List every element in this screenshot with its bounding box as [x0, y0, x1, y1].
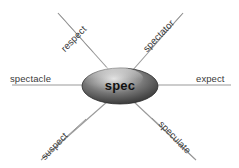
word-web-diagram: spec spectacle expect respect spectator …	[0, 0, 239, 168]
center-node-label: spec	[82, 78, 158, 93]
spoke-label-expect: expect	[196, 74, 225, 84]
spoke-label-spectacle: spectacle	[10, 74, 51, 84]
